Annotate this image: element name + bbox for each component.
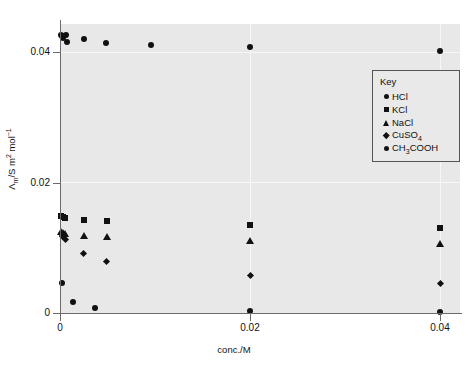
- data-point-kcl: [437, 225, 443, 231]
- y-tick-0: [53, 313, 60, 314]
- data-point-hcl: [148, 42, 154, 48]
- x-tick-label-0.04: 0.04: [410, 322, 468, 333]
- x-tick-0.04: [440, 314, 441, 321]
- data-point-hcl: [103, 40, 109, 46]
- legend-label: NaCl: [392, 117, 413, 128]
- gridline-x-0.02: [250, 24, 251, 313]
- data-point-ch3cooh: [70, 299, 76, 305]
- data-point-hcl: [437, 48, 443, 54]
- data-point-nacl: [436, 240, 444, 247]
- circle-marker-icon: [380, 146, 392, 151]
- x-axis-title: conc./M: [0, 344, 468, 355]
- data-point-cuso4: [62, 236, 69, 243]
- data-point-nacl: [80, 232, 88, 239]
- x-axis-line: [56, 313, 462, 314]
- plot-area: [60, 24, 460, 313]
- y-axis-title-exp: 2: [5, 154, 12, 158]
- x-tick-label-0.02: 0.02: [220, 322, 280, 333]
- legend-entries: HClKClNaClCuSO4CH3COOH: [380, 90, 453, 155]
- y-axis-title-unit2: mol: [6, 136, 17, 154]
- legend-label: CH3COOH: [392, 142, 438, 155]
- data-point-nacl: [103, 233, 111, 240]
- legend-label: KCl: [392, 104, 407, 115]
- data-point-cuso4: [436, 280, 443, 287]
- data-point-hcl: [64, 39, 70, 45]
- circle-glyph: [384, 146, 389, 151]
- square-marker-icon: [380, 107, 392, 112]
- y-tick-label-0: 0: [0, 308, 50, 318]
- y-axis-title-symbol: Λ: [6, 183, 17, 189]
- data-point-nacl: [246, 237, 254, 244]
- data-point-hcl: [81, 36, 87, 42]
- y-axis-title-unit: /S m: [6, 158, 17, 178]
- y-tick-label-0.04: 0.04: [0, 47, 50, 57]
- x-tick-0: [60, 314, 61, 321]
- y-axis-title: Λm/S m2 mol−1: [5, 94, 19, 224]
- data-point-kcl: [62, 215, 68, 221]
- legend-item-ch: CH3COOH: [380, 142, 453, 155]
- legend-title: Key: [380, 76, 453, 87]
- y-tick-0.02: [53, 183, 60, 184]
- y-axis-line: [60, 20, 61, 317]
- x-tick-0.02: [250, 314, 251, 321]
- data-point-kcl: [81, 217, 87, 223]
- legend-item-hcl: HCl: [380, 90, 453, 103]
- data-point-kcl: [247, 222, 253, 228]
- data-point-cuso4: [80, 250, 87, 257]
- y-tick-0.04: [53, 52, 60, 53]
- data-point-cuso4: [246, 272, 253, 279]
- gridline-y-0.02: [60, 182, 460, 183]
- legend-label: HCl: [392, 91, 408, 102]
- legend-item-kcl: KCl: [380, 103, 453, 116]
- legend-item-nacl: NaCl: [380, 116, 453, 129]
- y-axis-title-sub: m: [12, 178, 19, 184]
- gridline-x-0.04: [440, 24, 441, 313]
- data-point-cuso4: [103, 258, 110, 265]
- data-point-hcl: [247, 44, 253, 50]
- x-tick-label-0: 0: [30, 322, 90, 333]
- triangle-glyph: [383, 120, 389, 126]
- triangle-marker-icon: [380, 120, 392, 126]
- data-point-kcl: [104, 218, 110, 224]
- data-point-ch3cooh: [92, 305, 98, 311]
- legend-item-cuso: CuSO4: [380, 129, 453, 142]
- circle-glyph: [384, 94, 389, 99]
- chart-root: 00.020.04 00.020.04 conc./M Λm/S m2 mol−…: [0, 0, 468, 369]
- diamond-glyph: [383, 132, 389, 138]
- data-point-hcl: [63, 32, 69, 38]
- gridline-y-0.04: [60, 52, 460, 53]
- y-axis-title-exp2: −1: [5, 128, 12, 136]
- legend-box: Key HClKClNaClCuSO4CH3COOH: [372, 70, 460, 162]
- legend-label: CuSO4: [392, 129, 422, 142]
- diamond-marker-icon: [380, 133, 392, 138]
- circle-marker-icon: [380, 94, 392, 99]
- square-glyph: [384, 107, 389, 112]
